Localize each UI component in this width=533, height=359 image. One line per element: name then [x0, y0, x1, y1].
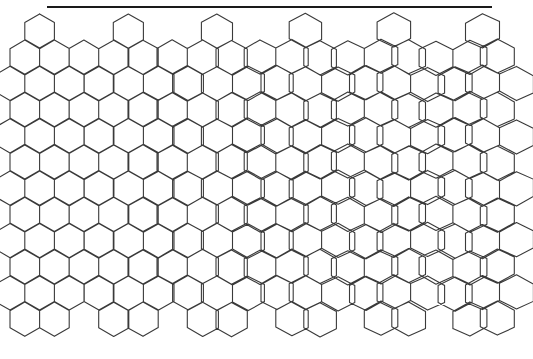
- tiling-edges: [0, 13, 533, 337]
- hexagon-pentagon-tiling: [0, 0, 533, 359]
